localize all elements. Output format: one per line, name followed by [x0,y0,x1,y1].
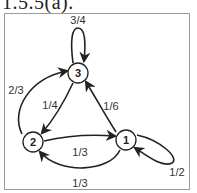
edge-label-2-to-3: 2/3 [8,84,23,96]
edge-label-1-to-2: 1/3 [72,177,87,189]
edge-3-to-3 [72,28,85,63]
state-transition-diagram [0,0,197,193]
edge-2-to-1 [44,135,115,141]
node-1-label: 1 [123,134,129,146]
edge-label-1-to-1: 1/2 [169,166,184,178]
edge-label-3-to-3: 3/4 [70,14,85,26]
edge-1-to-1 [135,135,174,164]
node-3-label: 3 [75,67,81,79]
edge-label-3-to-2: 1/4 [42,99,57,111]
node-2-label: 2 [30,136,36,148]
edge-label-2-to-1: 1/3 [72,146,87,158]
edge-label-1-to-3: 1/6 [103,100,118,112]
